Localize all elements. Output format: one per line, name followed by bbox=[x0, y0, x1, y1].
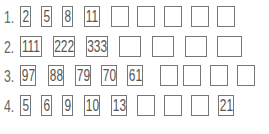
answer-box[interactable] bbox=[185, 36, 207, 57]
row-label: 2. bbox=[4, 38, 14, 58]
sequence-cell: 8 bbox=[62, 6, 73, 27]
sequence-row-3: 3. 97 88 79 70 61 bbox=[0, 65, 269, 88]
sequence-cell: 88 bbox=[48, 65, 64, 86]
answer-box[interactable] bbox=[164, 6, 182, 27]
sequence-cell: 70 bbox=[101, 65, 117, 86]
answer-box[interactable] bbox=[152, 36, 174, 57]
sequence-cell: 61 bbox=[127, 65, 143, 86]
answer-box[interactable] bbox=[137, 6, 155, 27]
sequence-cell: 21 bbox=[218, 95, 234, 116]
answer-box[interactable] bbox=[191, 6, 209, 27]
answer-box[interactable] bbox=[183, 65, 201, 86]
sequence-cell: 2 bbox=[20, 6, 31, 27]
answer-box[interactable] bbox=[210, 65, 228, 86]
answer-box[interactable] bbox=[191, 95, 209, 116]
sequence-cell: 333 bbox=[86, 36, 108, 57]
answer-box[interactable] bbox=[137, 95, 155, 116]
sequence-cell: 9 bbox=[62, 95, 73, 116]
sequence-cell: 6 bbox=[41, 95, 52, 116]
answer-box[interactable] bbox=[119, 36, 141, 57]
sequence-cell: 97 bbox=[20, 65, 36, 86]
sequence-cell: 111 bbox=[20, 36, 42, 57]
sequence-row-1: 1. 2 5 8 11 bbox=[0, 6, 269, 29]
answer-box[interactable] bbox=[217, 6, 235, 27]
sequence-row-4: 4. 5 6 9 10 13 21 bbox=[0, 95, 269, 118]
answer-box[interactable] bbox=[217, 36, 242, 57]
answer-box[interactable] bbox=[111, 6, 129, 27]
answer-box[interactable] bbox=[237, 65, 255, 86]
row-label: 4. bbox=[4, 97, 14, 117]
sequence-cell: 5 bbox=[20, 95, 31, 116]
sequence-cell: 222 bbox=[53, 36, 75, 57]
sequence-cell: 79 bbox=[75, 65, 91, 86]
answer-box[interactable] bbox=[164, 95, 182, 116]
sequence-cell: 10 bbox=[84, 95, 100, 116]
sequence-cell: 11 bbox=[84, 6, 100, 27]
row-label: 3. bbox=[4, 67, 14, 87]
row-label: 1. bbox=[4, 8, 14, 28]
sequence-row-2: 2. 111 222 333 bbox=[0, 36, 269, 59]
answer-box[interactable] bbox=[160, 65, 178, 86]
sequence-cell: 13 bbox=[111, 95, 127, 116]
sequence-cell: 5 bbox=[41, 6, 52, 27]
